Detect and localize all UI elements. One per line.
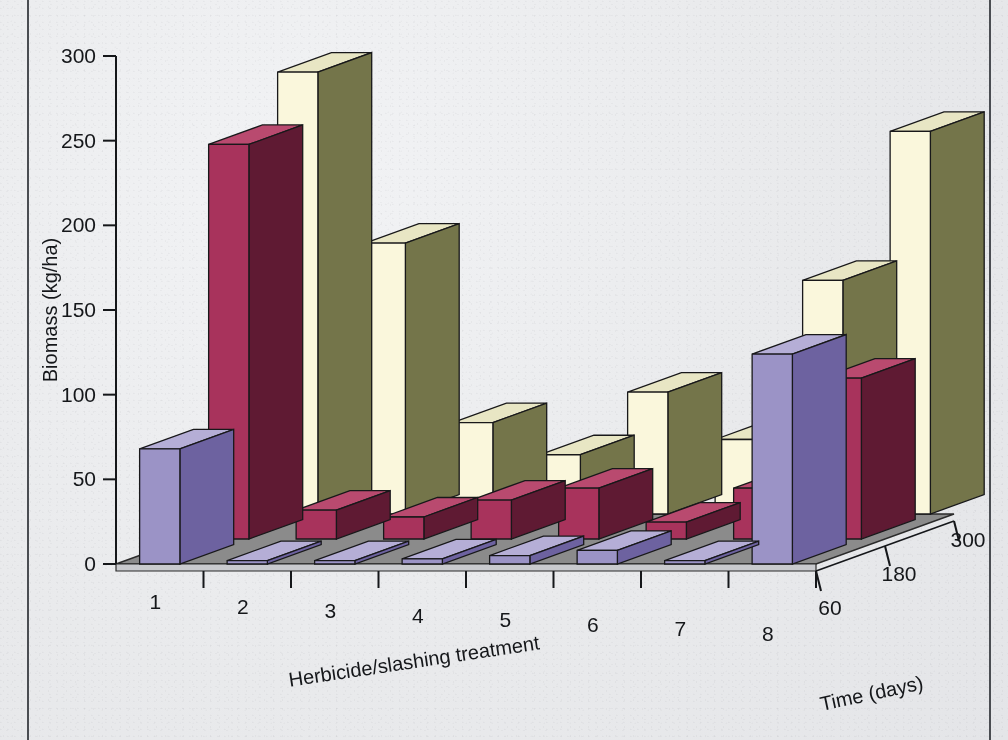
bar-3d	[365, 224, 459, 514]
x-axis-tick-label: 6	[587, 613, 599, 636]
x-axis-tick-label: 8	[762, 622, 774, 645]
bar-front-face	[752, 354, 792, 564]
x-axis-tick-label: 7	[675, 617, 687, 640]
x-axis: 12345678	[150, 571, 816, 645]
x-axis-tick-label: 1	[150, 590, 162, 613]
bar-front-face	[315, 561, 355, 564]
bar-side-face	[318, 53, 372, 514]
x-axis-tick-label: 2	[237, 595, 249, 618]
bar-side-face	[405, 224, 459, 514]
y-axis: 050100150200250300	[61, 44, 116, 575]
z-axis-tick-label: 300	[950, 528, 985, 551]
x-axis-tick-label: 3	[325, 599, 337, 622]
bars-layer	[140, 53, 985, 564]
bar-front-face	[140, 449, 180, 564]
y-axis-tick-label: 200	[61, 213, 96, 236]
bar-front-face	[665, 561, 705, 564]
bar-3d	[752, 335, 846, 564]
x-axis-tick-label: 4	[412, 604, 424, 627]
y-axis-tick-label: 100	[61, 383, 96, 406]
bar-side-face	[930, 112, 984, 514]
y-axis-tick-label: 50	[73, 467, 96, 490]
y-axis-tick-label: 250	[61, 129, 96, 152]
bar-side-face	[180, 429, 234, 564]
bar-side-face	[249, 125, 303, 539]
z-axis-tick-label: 60	[818, 596, 841, 619]
bar-3d	[140, 429, 234, 564]
bar-side-face	[861, 359, 915, 539]
y-axis-tick-label: 150	[61, 298, 96, 321]
bar-front-face	[402, 559, 442, 564]
y-axis-tick-label: 300	[61, 44, 96, 67]
z-axis-tick-label: 180	[881, 562, 916, 585]
bar-front-face	[227, 561, 267, 564]
y-axis-title: Biomass (kg/ha)	[39, 238, 61, 383]
x-axis-title: Herbicide/slashing treatment	[287, 631, 541, 690]
bar-side-face	[668, 373, 722, 514]
bar-front-face	[490, 556, 530, 564]
bar-front-face	[577, 550, 617, 564]
z-axis-title: Time (days)	[818, 671, 925, 714]
bar-chart-3d: 050100150200250300 12345678 60180300 Bio…	[0, 0, 1008, 740]
figure-canvas: 050100150200250300 12345678 60180300 Bio…	[0, 0, 1008, 740]
bar-side-face	[792, 335, 846, 564]
y-axis-tick-label: 0	[84, 552, 96, 575]
x-axis-tick-label: 5	[500, 608, 512, 631]
